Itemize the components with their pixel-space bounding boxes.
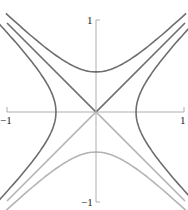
y-max-label: 1 bbox=[87, 15, 93, 26]
x-min-label: −1 bbox=[0, 115, 12, 126]
y-min-label: −1 bbox=[81, 197, 93, 208]
hyperbola-diagram bbox=[0, 0, 188, 210]
x-max-label: 1 bbox=[180, 115, 186, 126]
